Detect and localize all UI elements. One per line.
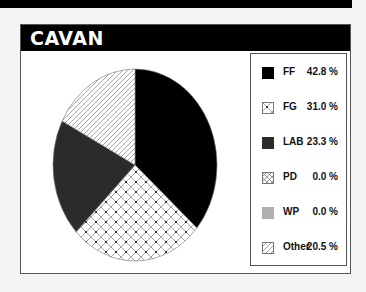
solid-black-swatch-icon [262, 67, 274, 79]
legend-value: 31.0 % [307, 101, 338, 112]
pie-slices [53, 69, 217, 261]
legend-label: WP [283, 206, 299, 217]
top-bar [0, 0, 352, 8]
legend: FF 42.8 % FG 31.0 % LAB 23.3 % PD 0.0 % … [250, 53, 347, 266]
chart-card: CAVAN FF 42.8 % FG [20, 24, 351, 274]
legend-item-other: Other 20.5 % [251, 239, 346, 259]
legend-item-wp: WP 0.0 % [251, 204, 346, 224]
legend-label: FG [283, 101, 297, 112]
solid-dark-swatch-icon [262, 137, 274, 149]
legend-item-fg: FG 31.0 % [251, 99, 346, 119]
legend-value: 20.5 % [307, 241, 338, 252]
legend-label: Other [283, 241, 310, 252]
legend-item-lab: LAB 23.3 % [251, 134, 346, 154]
legend-item-pd: PD 0.0 % [251, 169, 346, 189]
solid-light-swatch-icon [262, 207, 274, 219]
legend-value: 0.0 % [312, 206, 338, 217]
diagonal-hatch-swatch-icon [262, 242, 274, 254]
legend-value: 23.3 % [307, 136, 338, 147]
crosshatch-swatch-icon [262, 172, 274, 184]
legend-label: FF [283, 66, 295, 77]
legend-label: LAB [283, 136, 304, 147]
legend-value: 42.8 % [307, 66, 338, 77]
chart-title: CAVAN [30, 26, 104, 50]
legend-value: 0.0 % [312, 171, 338, 182]
crosshatch-dotted-swatch-icon [262, 102, 274, 114]
legend-item-ff: FF 42.8 % [251, 64, 346, 84]
pie-chart [51, 67, 219, 263]
card-header: CAVAN [21, 25, 350, 51]
legend-label: PD [283, 171, 297, 182]
